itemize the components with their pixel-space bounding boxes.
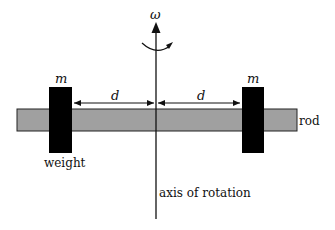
rod-label: rod bbox=[299, 114, 320, 128]
arrowhead-right-start-icon bbox=[158, 100, 165, 106]
omega-label: ω bbox=[150, 7, 161, 22]
arrowhead-left-icon bbox=[74, 100, 81, 106]
weight-left bbox=[49, 87, 72, 153]
mass-left-label: m bbox=[55, 71, 67, 86]
weight-right bbox=[242, 87, 264, 153]
mass-right-label: m bbox=[247, 71, 259, 86]
distance-left-label: d bbox=[111, 88, 119, 103]
axis-label: axis of rotation bbox=[159, 186, 251, 200]
arrow-up-icon bbox=[152, 22, 161, 33]
weight-label: weight bbox=[44, 156, 86, 170]
distance-right-label: d bbox=[197, 88, 205, 103]
rotating-rod-diagram: ω m m d d rod weight axis of rotation bbox=[0, 0, 335, 230]
